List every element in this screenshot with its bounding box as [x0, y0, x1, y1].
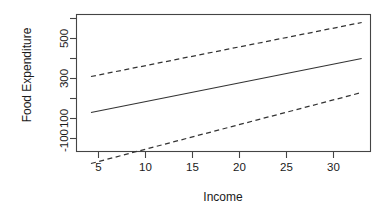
x-tick-label-20: 20 [233, 161, 246, 173]
regression-plot: 500 300 100 -100 Food Expenditure 5 10 1… [0, 0, 391, 217]
y-tick-label-100: 100 [58, 109, 70, 128]
x-axis-title: Income [203, 190, 243, 204]
x-tick-label-10: 10 [139, 161, 152, 173]
y-tick-label-300: 300 [58, 69, 70, 88]
x-tick-label-30: 30 [327, 161, 340, 173]
y-tick-label-minus-100: -100 [58, 129, 70, 152]
x-tick-label-5: 5 [95, 161, 101, 173]
chart-container: 500 300 100 -100 Food Expenditure 5 10 1… [0, 0, 391, 217]
y-tick-label-500: 500 [58, 29, 70, 48]
y-axis-title: Food Expenditure [20, 27, 34, 122]
x-tick-label-25: 25 [280, 161, 293, 173]
x-tick-label-15: 15 [186, 161, 199, 173]
